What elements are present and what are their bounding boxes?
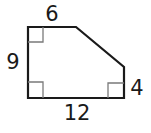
label-right: 4: [130, 76, 143, 100]
right-angle-marker-bottom-right: [108, 83, 124, 98]
label-bottom: 12: [64, 101, 91, 125]
right-angle-marker-bottom-left: [28, 82, 43, 98]
right-angle-marker-top-left: [28, 27, 43, 42]
pentagon-diagram: 6 9 4 12: [0, 0, 151, 133]
label-top: 6: [45, 2, 58, 26]
label-left: 9: [6, 50, 19, 74]
